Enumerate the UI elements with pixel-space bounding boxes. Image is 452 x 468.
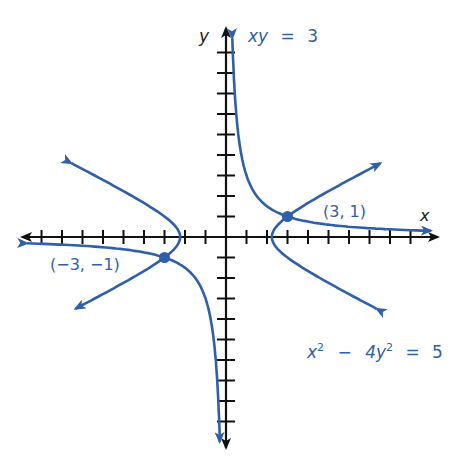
eq-h-4y: 4y (365, 342, 386, 362)
eq-h-x-exp: 2 (317, 341, 324, 354)
eq-h-equals: = (405, 342, 419, 362)
eq-h-minus: − (337, 342, 351, 362)
x-axis-label: x (420, 206, 429, 225)
point-neg3-neg1 (159, 252, 170, 263)
eq-xy-rhs: 3 (307, 26, 318, 46)
axes (22, 28, 438, 448)
y-axis-label: y (199, 26, 209, 46)
equation-label-hyperbola: x2 − 4y2 = 5 (307, 342, 443, 362)
equation-label-xy: xy = 3 (248, 26, 318, 46)
eq-h-x: x (307, 342, 317, 362)
eq-xy-equals: = (281, 26, 295, 46)
eq-h-rhs: 5 (432, 342, 443, 362)
eq-xy-lhs: xy (248, 26, 268, 46)
eq-h-y-exp: 2 (386, 341, 393, 354)
point-label-3-1: (3, 1) (323, 202, 366, 221)
hyperbola-intersection-diagram (0, 0, 452, 468)
point-3-1 (282, 211, 293, 222)
point-label-neg3-neg1: (−3, −1) (50, 255, 120, 274)
